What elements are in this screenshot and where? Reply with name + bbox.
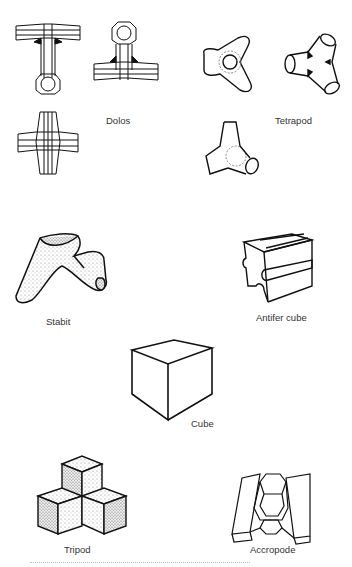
tetrapod-label: Tetrapod xyxy=(275,115,312,126)
tetrapod-view-3-drawing xyxy=(202,120,262,178)
tetrapod-view-1-drawing xyxy=(200,32,260,96)
cube-label: Cube xyxy=(191,418,214,429)
tripod-drawing xyxy=(36,454,128,538)
accropode-label: Accropode xyxy=(250,544,295,555)
dolos-view-2-drawing xyxy=(92,20,160,82)
antifer-cube-label: Antifer cube xyxy=(256,312,307,323)
cube-drawing xyxy=(130,338,216,424)
accropode-drawing xyxy=(230,472,312,542)
dolos-view-3-drawing xyxy=(16,110,80,176)
tripod-label: Tripod xyxy=(64,544,91,555)
cut-off-caption-line xyxy=(30,562,250,564)
stabit-label: Stabit xyxy=(46,316,70,327)
dolos-view-1-drawing xyxy=(14,20,82,90)
antifer-cube-drawing xyxy=(242,230,314,304)
stabit-drawing xyxy=(12,230,108,310)
tetrapod-view-2-drawing xyxy=(282,32,342,96)
dolos-label: Dolos xyxy=(106,115,130,126)
